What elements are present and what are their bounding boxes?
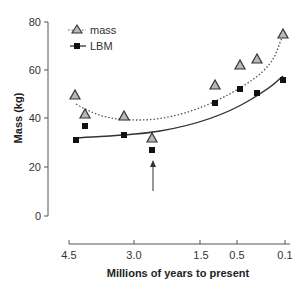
arrow-annotation: [150, 160, 156, 191]
y-tick-0: 0: [35, 210, 41, 222]
lbm-point: [212, 100, 218, 106]
x-tick-3-0: 3.0: [126, 249, 141, 261]
x-tick-0-5: 0.5: [229, 249, 244, 261]
y-tick-20: 20: [29, 161, 41, 173]
y-tick-40: 40: [29, 112, 41, 124]
mass-point: [147, 133, 157, 142]
y-tick-60: 60: [29, 64, 41, 76]
y-axis: 80 60 40 20 0 Mass (kg): [12, 16, 48, 222]
lbm-point: [280, 77, 286, 83]
x-tick-1-5: 1.5: [193, 249, 208, 261]
lbm-point: [149, 147, 155, 153]
x-axis-title: Millions of years to present: [107, 267, 250, 279]
mass-point: [252, 54, 262, 63]
mass-point: [210, 80, 220, 89]
lbm-point: [254, 90, 260, 96]
legend-item-lbm: LBM: [70, 40, 113, 52]
legend-item-mass: mass: [68, 24, 117, 36]
y-axis-title: Mass (kg): [12, 92, 24, 143]
square-icon: [74, 43, 80, 49]
lbm-point: [121, 132, 127, 138]
lbm-point: [82, 123, 88, 129]
mass-point: [235, 60, 245, 69]
mass-point: [80, 109, 90, 118]
lbm-point: [73, 137, 79, 143]
triangle-icon: [72, 25, 82, 33]
lbm-point: [237, 86, 243, 92]
x-tick-4-5: 4.5: [61, 249, 76, 261]
lbm-series: [73, 77, 286, 153]
mass-point: [70, 90, 80, 99]
y-tick-80: 80: [29, 16, 41, 28]
legend-label-mass: mass: [90, 24, 117, 36]
mass-point: [278, 29, 288, 38]
chart: 80 60 40 20 0 Mass (kg) 4.5 3.0 1.5 0.5 …: [0, 0, 306, 294]
x-tick-0-1: 0.1: [277, 249, 292, 261]
x-axis: 4.5 3.0 1.5 0.5 0.1 Millions of years to…: [61, 240, 292, 279]
lbm-fit-curve: [76, 76, 283, 138]
legend-label-lbm: LBM: [90, 40, 113, 52]
legend: mass LBM: [68, 24, 117, 52]
mass-point: [119, 111, 129, 120]
